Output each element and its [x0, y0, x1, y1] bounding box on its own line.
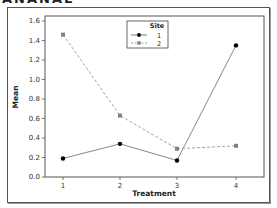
- data-point: [118, 114, 122, 118]
- square-marker-icon: [137, 41, 140, 44]
- y-tick-label: 0.8: [29, 95, 40, 103]
- series-lines: [61, 33, 238, 163]
- legend-title: Site: [150, 22, 165, 30]
- data-point: [175, 147, 179, 151]
- circle-marker-icon: [137, 33, 141, 37]
- y-axis-label: Mean: [11, 86, 20, 109]
- data-point: [175, 158, 179, 162]
- legend-entry-2: 2: [157, 40, 161, 48]
- y-tick-label: 0.4: [29, 134, 41, 142]
- y-axis: 0.00.20.40.60.81.01.21.41.6: [29, 17, 45, 181]
- data-point: [118, 142, 122, 146]
- x-axis-label: Treatment: [132, 189, 176, 198]
- y-tick-label: 0.2: [29, 154, 40, 162]
- data-point: [234, 144, 238, 148]
- legend-entry-1: 1: [157, 32, 161, 40]
- x-tick-label: 4: [234, 182, 239, 190]
- data-point: [234, 43, 238, 47]
- data-point: [61, 33, 65, 37]
- y-tick-label: 1.4: [29, 37, 41, 45]
- y-tick-label: 1.2: [29, 56, 40, 64]
- data-point: [61, 156, 65, 160]
- legend: Site 1 2: [127, 21, 168, 48]
- y-tick-label: 1.0: [29, 76, 40, 84]
- x-tick-label: 1: [61, 182, 65, 190]
- y-tick-label: 1.6: [29, 17, 41, 25]
- interaction-plot: 0.00.20.40.60.81.01.21.41.6 1234 Treatme…: [0, 0, 277, 208]
- y-tick-label: 0.0: [29, 173, 40, 181]
- x-tick-label: 2: [118, 182, 122, 190]
- y-tick-label: 0.6: [29, 115, 41, 123]
